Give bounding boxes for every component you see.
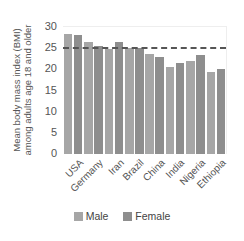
y-tick-label: 10 xyxy=(45,105,57,117)
bar-ethiopia-female xyxy=(217,69,226,155)
bar-germany-female xyxy=(94,46,103,154)
y-tick-label: 30 xyxy=(45,20,57,32)
y-tick-label: 25 xyxy=(45,41,57,53)
plot-area xyxy=(63,26,227,154)
y-tick-label: 15 xyxy=(45,84,57,96)
bar-usa-male xyxy=(64,34,73,154)
x-tick-label: China xyxy=(140,157,166,183)
y-tick-label: 0 xyxy=(51,147,57,159)
y-tick-label: 5 xyxy=(51,126,57,138)
bar-iran-female xyxy=(115,42,124,154)
bar-nigeria-male xyxy=(186,61,195,154)
bar-china-female xyxy=(155,57,164,154)
legend-item-female: Female xyxy=(123,210,170,222)
male-swatch xyxy=(74,212,83,221)
bar-iran-male xyxy=(105,49,114,154)
y-axis-label: Mean body mass index (BMI) among adults … xyxy=(2,20,42,160)
legend-item-male: Male xyxy=(74,210,109,222)
x-tick-label: Brazil xyxy=(121,157,146,182)
bar-nigeria-female xyxy=(196,55,205,154)
bar-germany-male xyxy=(84,42,93,154)
legend: Male Female xyxy=(0,210,244,222)
bar-india-female xyxy=(176,63,185,154)
bar-brazil-male xyxy=(125,48,134,154)
bar-ethiopia-male xyxy=(207,72,216,154)
bar-usa-female xyxy=(74,35,83,154)
y-axis-label-line-2: among adults age 18 and older xyxy=(22,25,33,156)
bar-india-male xyxy=(166,67,175,154)
reference-line-bmi-25 xyxy=(63,47,226,49)
y-tick-label: 20 xyxy=(45,62,57,74)
female-swatch xyxy=(123,212,132,221)
bar-brazil-female xyxy=(135,48,144,154)
bar-china-male xyxy=(145,54,154,154)
y-axis-label-line-1: Mean body mass index (BMI) xyxy=(11,25,22,156)
